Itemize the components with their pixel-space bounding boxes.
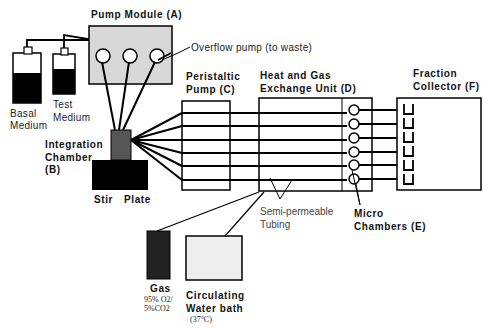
gas-line [157, 192, 259, 231]
micro-chamber-3-icon [349, 133, 359, 143]
stir-plate-label-2: Plate [124, 194, 151, 205]
water-bath [186, 236, 242, 280]
pump-head-1-icon [96, 49, 110, 63]
integration-chamber-label-2: Chamber [45, 152, 93, 163]
gas-composition-1: 95% O2/ [144, 295, 173, 304]
semi-permeable-label-2: Tubing [260, 219, 290, 230]
semi-permeable-label-1: Semi-permeable [260, 206, 334, 217]
micro-chamber-4-icon [349, 147, 359, 157]
gas-composition-2: 5%CO2 [144, 304, 170, 313]
integration-chamber-label-3: (B) [45, 164, 61, 175]
water-bath-label-1: Circulating [186, 290, 245, 301]
basal-medium-bottle [13, 47, 41, 103]
micro-chamber-5-icon [349, 160, 359, 170]
perfusion-diagram: Basal Medium Test Medium Pump Module (A)… [0, 0, 494, 330]
basal-medium-label-2: Medium [10, 120, 47, 131]
water-bath-temperature: (37°C) [190, 315, 212, 324]
water-line [225, 192, 264, 236]
heat-gas-unit-label-1: Heat and Gas [260, 70, 331, 81]
stir-plate [92, 160, 148, 190]
fraction-collector [397, 98, 481, 190]
fraction-collector-label-2: Collector (F) [413, 81, 480, 92]
fraction-collector-label-1: Fraction [413, 68, 457, 79]
micro-chamber-1-icon [349, 105, 359, 115]
micro-chambers-label-2: Chambers (E) [354, 221, 426, 232]
micro-chambers-label-1: Micro [354, 208, 384, 219]
basal-medium-label-1: Basal [10, 108, 37, 119]
stir-plate-label-1: Stir [94, 194, 113, 205]
pump-head-3-icon [150, 49, 164, 63]
test-medium-label-1: Test [53, 99, 73, 110]
gas-cylinder [147, 231, 170, 279]
gas-label: Gas [150, 283, 171, 294]
test-medium-label-2: Medium [53, 112, 90, 123]
pump-head-2-icon [123, 49, 137, 63]
peristaltic-pump-label-2: Pump (C) [186, 84, 235, 95]
test-medium-bottle [53, 48, 75, 94]
heat-gas-unit-label-2: Exchange Unit (D) [260, 83, 356, 94]
peristaltic-pump [182, 101, 230, 190]
water-bath-label-2: Water bath [186, 303, 243, 314]
micro-chamber-2-icon [349, 119, 359, 129]
integration-chamber-label-1: Integration [45, 139, 103, 150]
peristaltic-pump-label-1: Peristaltic [186, 71, 240, 82]
overflow-pump-label: Overflow pump (to waste) [191, 42, 312, 53]
pump-module-label: Pump Module (A) [91, 9, 182, 20]
integration-chamber [111, 130, 131, 160]
